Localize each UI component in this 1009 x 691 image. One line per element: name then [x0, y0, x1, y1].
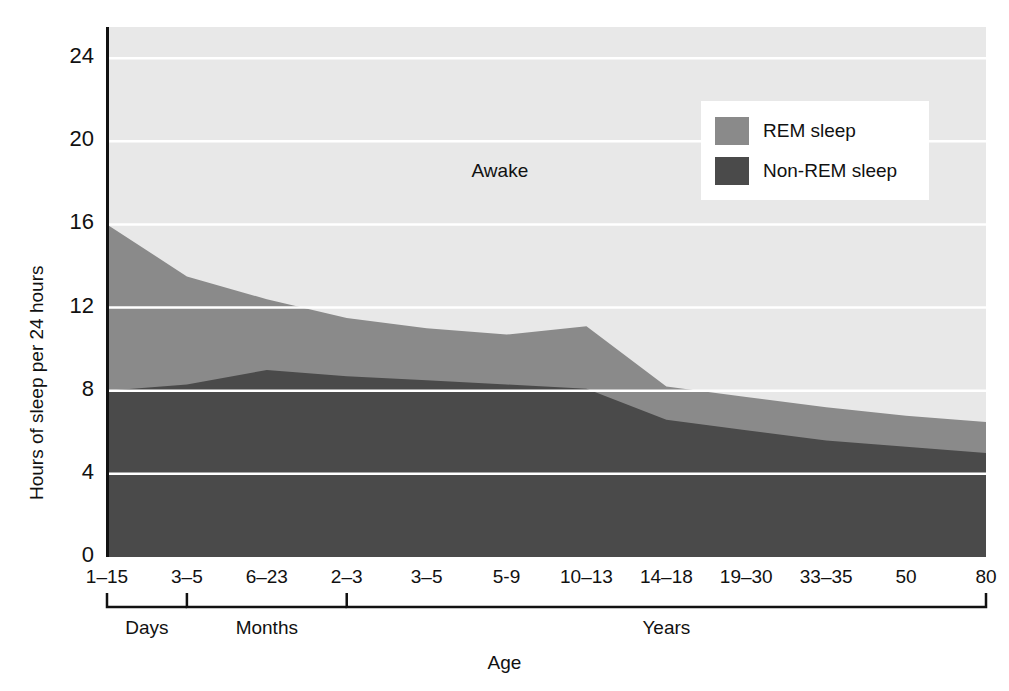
legend-item-rem: REM sleep [715, 117, 929, 145]
legend-swatch-nonrem [715, 157, 749, 185]
bracket-months [187, 593, 347, 607]
x-tick-label-11: 80 [931, 566, 1009, 588]
sleep-architecture-chart: Hours of sleep per 24 hours 24201612840 … [0, 0, 1009, 691]
legend-item-nonrem: Non-REM sleep [715, 157, 929, 185]
group-label-months: Months [167, 617, 367, 639]
x-axis-title: Age [0, 652, 1009, 674]
y-tick-label-8: 8 [40, 376, 94, 402]
y-tick-label-12: 12 [40, 293, 94, 319]
y-tick-label-20: 20 [40, 126, 94, 152]
y-tick-label-0: 0 [40, 542, 94, 568]
bracket-years [347, 593, 986, 607]
legend-label-nonrem: Non-REM sleep [763, 160, 897, 182]
y-tick-label-16: 16 [40, 209, 94, 235]
chart-legend: REM sleep Non-REM sleep [701, 101, 929, 200]
group-label-years: Years [566, 617, 766, 639]
y-tick-label-4: 4 [40, 459, 94, 485]
bracket-days [107, 593, 187, 607]
x-axis-group-brackets [107, 593, 986, 607]
legend-label-rem: REM sleep [763, 120, 856, 142]
legend-swatch-rem [715, 117, 749, 145]
y-tick-label-24: 24 [40, 43, 94, 69]
awake-region-label: Awake [472, 160, 529, 182]
